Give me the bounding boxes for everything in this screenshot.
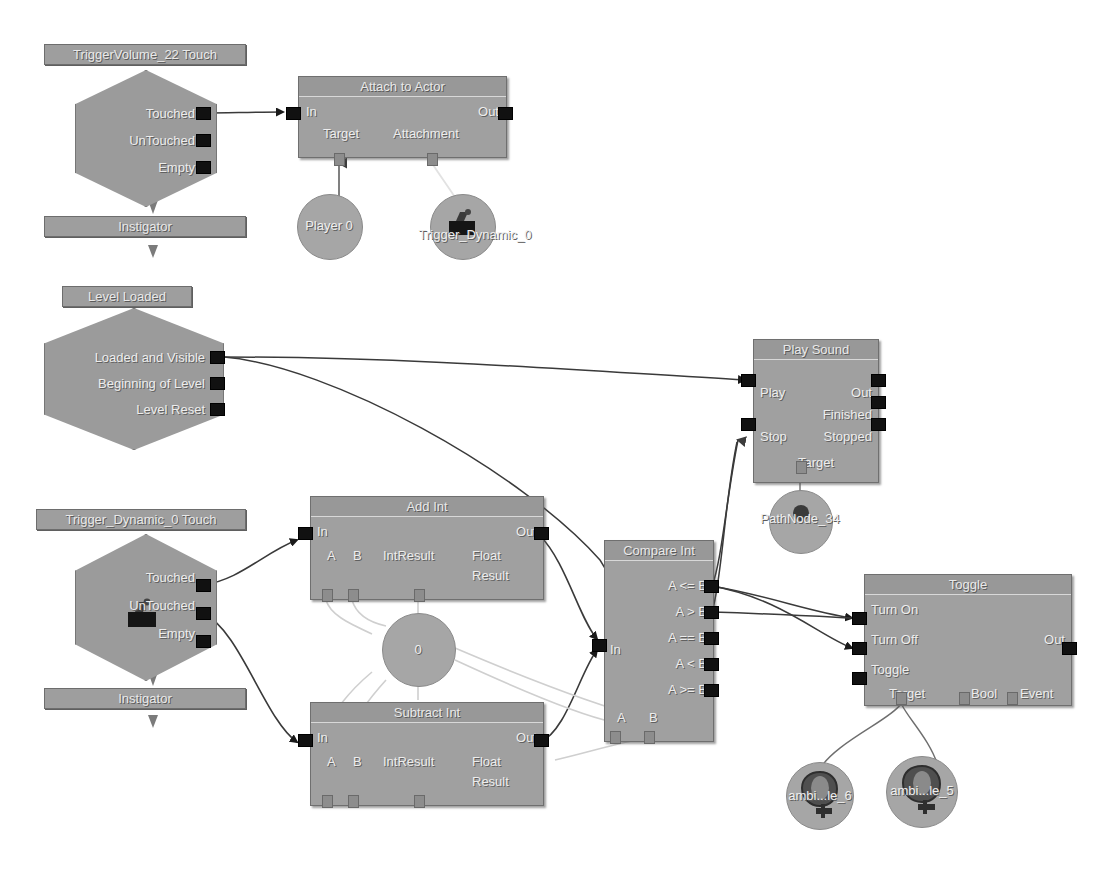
- plug-touched[interactable]: [196, 579, 211, 592]
- output-label-out: Out: [851, 386, 872, 400]
- vplug-attach-target[interactable]: [334, 153, 345, 166]
- plug-addint-in[interactable]: [298, 527, 313, 540]
- vplug-compare-a[interactable]: [610, 731, 621, 744]
- var-label-b: B: [353, 549, 362, 563]
- vplug-toggle-target[interactable]: [896, 692, 907, 705]
- vplug-attach-attachment[interactable]: [427, 153, 438, 166]
- plug-toggle-out[interactable]: [1062, 642, 1077, 655]
- node-toggle[interactable]: Toggle Turn On Turn Off Toggle Out Targe…: [864, 574, 1072, 706]
- variable-label-ambient-5: ambi...le_5: [872, 784, 972, 798]
- var-label-attachment: Attachment: [393, 127, 459, 141]
- output-label-finished: Finished: [823, 408, 872, 422]
- plug-addint-out[interactable]: [534, 527, 549, 540]
- node-variable-label-instigator-top[interactable]: Instigator: [44, 216, 246, 237]
- var-label-intresult: IntResult: [383, 755, 434, 769]
- var-label-playsound-target: Target: [754, 456, 878, 470]
- plug-beginning-of-level[interactable]: [210, 377, 225, 390]
- plug-attach-out[interactable]: [498, 107, 513, 120]
- output-label-untouched: UnTouched: [60, 134, 195, 148]
- input-label-stop: Stop: [760, 430, 787, 444]
- node-variable-label-instigator-bottom[interactable]: Instigator: [44, 688, 246, 709]
- plug-level-reset[interactable]: [210, 403, 225, 416]
- plug-turn-off[interactable]: [852, 642, 867, 655]
- plug-stop[interactable]: [741, 418, 756, 431]
- input-label-turn-on: Turn On: [871, 603, 918, 617]
- plug-play[interactable]: [741, 374, 756, 387]
- plug-toggle[interactable]: [852, 672, 867, 685]
- wire-subtractint-to-compareint: [540, 650, 597, 742]
- var-label-b: B: [353, 755, 362, 769]
- plug-empty[interactable]: [196, 161, 211, 174]
- var-label-a: A: [327, 549, 336, 563]
- plug-untouched[interactable]: [196, 607, 211, 620]
- kismet-graph-canvas[interactable]: TriggerVolume_22 Touch Touched UnTouched…: [0, 0, 1095, 876]
- plug-attach-in[interactable]: [286, 107, 301, 120]
- plug-finished[interactable]: [871, 396, 886, 409]
- node-caption-level-loaded[interactable]: Level Loaded: [62, 286, 192, 307]
- plug-loaded-and-visible[interactable]: [210, 351, 225, 364]
- plug-subint-in[interactable]: [298, 734, 313, 747]
- var-label-intresult: IntResult: [383, 549, 434, 563]
- plug-a-ge-b[interactable]: [704, 684, 719, 697]
- instigator-arrow-bottom-out: [148, 715, 158, 728]
- node-title-toggle: Toggle: [865, 575, 1071, 595]
- vplug-toggle-event[interactable]: [1007, 692, 1018, 705]
- wire-ale-b-to-turnon: [712, 586, 852, 618]
- variable-label-pathnode: PathNode_34: [744, 512, 856, 526]
- node-attach-to-actor[interactable]: Attach to Actor In Out Target Attachment: [298, 76, 507, 158]
- wire-addint-to-compareint: [540, 536, 597, 639]
- var-label-compare-a: A: [617, 711, 626, 725]
- node-title-play-sound: Play Sound: [754, 340, 878, 360]
- vplug-toggle-bool[interactable]: [959, 692, 970, 705]
- output-label-out: Out: [478, 105, 499, 119]
- plug-stopped[interactable]: [871, 418, 886, 431]
- var-label-float: Float: [472, 755, 501, 769]
- output-label-empty: Empty: [60, 627, 195, 641]
- variable-label-player0: Player 0: [291, 219, 367, 233]
- instigator-arrow-top-out: [148, 245, 158, 258]
- wire-levelloaded-to-playsound: [224, 357, 745, 380]
- plug-untouched[interactable]: [196, 134, 211, 147]
- node-compare-int[interactable]: Compare Int In A <= B A > B A == B A < B…: [604, 540, 714, 742]
- output-label-level-reset: Level Reset: [40, 403, 205, 417]
- vplug-compare-b[interactable]: [644, 731, 655, 744]
- variable-label-ambient-6: ambi...le_6: [770, 789, 870, 803]
- plug-a-gt-b[interactable]: [704, 606, 719, 619]
- vplug-subint-intresult[interactable]: [414, 795, 425, 808]
- plug-subint-out[interactable]: [534, 734, 549, 747]
- vplug-addint-a[interactable]: [322, 589, 333, 602]
- plug-compareint-in[interactable]: [592, 639, 607, 652]
- var-label-compare-b: B: [649, 711, 658, 725]
- wire-ambient6-to-toggletarget: [818, 705, 900, 772]
- node-caption-trigger-dynamic-touch[interactable]: Trigger_Dynamic_0 Touch: [36, 509, 246, 530]
- vplug-addint-intresult[interactable]: [414, 589, 425, 602]
- var-label-result: Result: [472, 775, 509, 789]
- node-caption-triggervolume-touch[interactable]: TriggerVolume_22 Touch: [44, 44, 246, 65]
- node-add-int[interactable]: Add Int In Out A B IntResult Float Resul…: [310, 496, 544, 600]
- plug-touched[interactable]: [196, 107, 211, 120]
- node-play-sound[interactable]: Play Sound Play Stop Out Finished Stoppe…: [753, 339, 879, 483]
- plug-a-le-b[interactable]: [704, 580, 719, 593]
- input-label-in: In: [317, 731, 328, 745]
- var-label-toggle-event: Event: [1020, 687, 1053, 701]
- input-label-play: Play: [760, 386, 785, 400]
- plug-a-lt-b[interactable]: [704, 658, 719, 671]
- wire-ale-b-to-turnoff: [712, 586, 852, 648]
- plug-a-eq-b[interactable]: [704, 632, 719, 645]
- node-subtract-int[interactable]: Subtract Int In Out A B IntResult Float …: [310, 702, 544, 806]
- vplug-playsound-target[interactable]: [796, 461, 807, 474]
- output-label-untouched: UnTouched: [60, 599, 195, 613]
- node-title-add-int: Add Int: [311, 497, 543, 517]
- wire-addint-b-to-zero: [352, 600, 386, 626]
- vplug-subint-b[interactable]: [348, 795, 359, 808]
- variable-label-int-zero: 0: [382, 643, 454, 657]
- vplug-addint-b[interactable]: [348, 589, 359, 602]
- var-label-result: Result: [472, 569, 509, 583]
- output-label-empty: Empty: [60, 161, 195, 175]
- input-label-in: In: [610, 643, 621, 657]
- input-label-toggle: Toggle: [871, 663, 909, 677]
- plug-turn-on[interactable]: [852, 612, 867, 625]
- vplug-subint-a[interactable]: [322, 795, 333, 808]
- plug-playsound-out[interactable]: [871, 374, 886, 387]
- plug-empty[interactable]: [196, 635, 211, 648]
